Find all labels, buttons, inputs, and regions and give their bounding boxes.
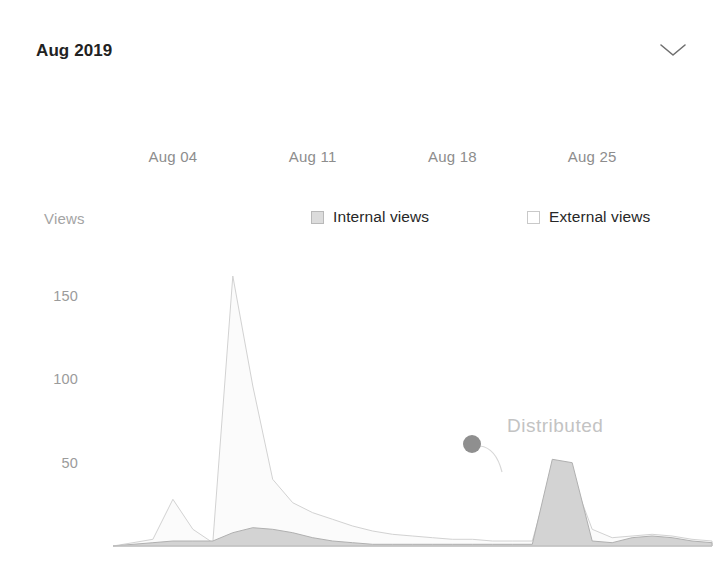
legend-item-external-views[interactable]: External views bbox=[527, 208, 650, 226]
date-tick-aug-25: Aug 25 bbox=[568, 148, 617, 165]
page-title: Aug 2019 bbox=[36, 42, 112, 59]
series-internal-views bbox=[113, 459, 712, 546]
date-axis: Aug 04Aug 11Aug 18Aug 25 bbox=[0, 148, 726, 174]
data-point-marker-distributed[interactable] bbox=[463, 435, 481, 453]
legend: Views Internal views External views bbox=[0, 206, 726, 236]
y-tick-100: 100 bbox=[53, 371, 78, 387]
panel-header: Aug 2019 bbox=[0, 0, 726, 100]
annotation-distributed: Distributed bbox=[507, 415, 603, 437]
views-area-chart[interactable]: Distributed 50100150 bbox=[0, 256, 726, 582]
date-tick-aug-11: Aug 11 bbox=[289, 148, 337, 165]
annotation-leader-line bbox=[480, 446, 502, 472]
series-external-views bbox=[113, 276, 712, 546]
chart-plot-area bbox=[0, 256, 726, 582]
y-tick-150: 150 bbox=[53, 288, 78, 304]
legend-label-internal: Internal views bbox=[333, 208, 429, 226]
date-tick-aug-04: Aug 04 bbox=[149, 148, 198, 165]
legend-label-external: External views bbox=[549, 208, 650, 226]
date-tick-aug-18: Aug 18 bbox=[428, 148, 477, 165]
legend-swatch-external-icon bbox=[527, 211, 540, 224]
chevron-down-icon[interactable] bbox=[656, 33, 690, 67]
legend-item-internal-views[interactable]: Internal views bbox=[311, 208, 429, 226]
legend-swatch-internal-icon bbox=[311, 211, 324, 224]
y-axis-title: Views bbox=[44, 210, 85, 227]
y-tick-50: 50 bbox=[61, 455, 78, 471]
